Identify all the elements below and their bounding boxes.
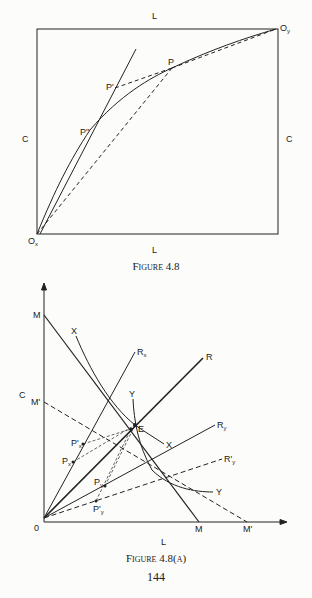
label-c: C: [19, 391, 26, 400]
origin-x-text: O: [28, 236, 35, 246]
label-p: P: [168, 58, 174, 67]
point-e: [133, 423, 137, 427]
point-py-prime: [95, 500, 98, 503]
label-x-right: X: [166, 441, 172, 450]
label-p-double-prime: P'': [80, 128, 89, 137]
y-axis-arrow: [42, 283, 47, 290]
py-sub: y: [100, 482, 103, 488]
point-py: [104, 485, 107, 488]
label-origin: 0: [34, 524, 39, 533]
label-ry: Ry: [217, 421, 227, 433]
budget-line-mm: [44, 315, 199, 522]
diagram-canvas: [0, 0, 312, 598]
label-y-top: Y: [129, 390, 135, 399]
ry-prime-text: R': [224, 454, 232, 464]
point-px: [72, 461, 75, 464]
tangent-line: [40, 49, 136, 234]
label-py: Py: [94, 478, 103, 490]
label-m-prime-bottom: M': [243, 525, 252, 534]
px-prime-text: P': [71, 438, 79, 448]
label-y-right: Y: [216, 488, 222, 497]
label-m-prime-left: M': [31, 398, 40, 407]
contract-curve: [37, 29, 276, 234]
label-rx: Rx: [137, 348, 147, 360]
page-number: 144: [0, 570, 312, 585]
label-origin-x: Ox: [28, 237, 38, 249]
px-sub: x: [68, 461, 71, 467]
origin-x-sub: x: [35, 241, 38, 247]
px-prime-sub: x: [79, 443, 82, 449]
dashed-chord-p-prime-p: [115, 68, 172, 88]
origin-y-text: O: [280, 23, 287, 33]
label-p-prime: P': [106, 83, 114, 92]
dashed-px-prime-e: [83, 429, 131, 444]
label-left-c: C: [22, 135, 29, 144]
py-prime-sub: y: [101, 509, 104, 515]
label-px: Px: [62, 457, 71, 469]
ry-sub: y: [224, 425, 227, 431]
label-l: L: [161, 538, 166, 547]
label-r: R: [206, 353, 213, 362]
label-top-l: L: [152, 12, 157, 21]
point-px-prime: [82, 443, 85, 446]
label-py-prime: P'y: [93, 505, 104, 517]
label-origin-y: Oy: [280, 24, 290, 36]
dashed-diagonal-ox-p: [37, 68, 172, 234]
figure-caption-4-8: Figure 4.8: [0, 260, 312, 272]
label-right-c: C: [286, 135, 293, 144]
origin-y-sub: y: [287, 28, 290, 34]
figure-caption-4-8a: Figure 4.8(a): [0, 552, 312, 564]
label-m-bottom: M: [195, 525, 203, 534]
dashed-chord-p-oy: [172, 29, 276, 68]
dashed-py-prime-e: [96, 429, 131, 501]
isoquant-x: [76, 336, 164, 444]
label-ry-prime: R'y: [224, 455, 235, 467]
edgeworth-box: [37, 29, 278, 234]
label-x-top: X: [71, 327, 77, 336]
point-e-prime: [130, 428, 133, 431]
x-axis-arrow: [280, 520, 287, 525]
py-prime-text: P': [93, 504, 101, 514]
ray-r: [44, 358, 203, 518]
label-m-top: M: [33, 311, 41, 320]
isoquant-y: [133, 399, 213, 492]
ry-prime-sub: y: [232, 459, 235, 465]
label-e: E: [138, 425, 144, 434]
rx-sub: x: [144, 352, 147, 358]
label-bottom-l: L: [152, 246, 157, 255]
label-px-prime: P'x: [71, 439, 82, 451]
